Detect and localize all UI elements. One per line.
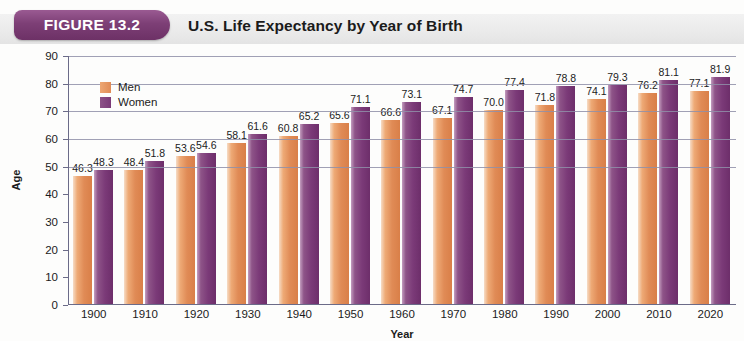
bar-group: 53.654.6 [172,56,223,304]
bar-women-1960[interactable]: 73.1 [402,102,421,304]
y-axis-tick-mark [63,277,68,278]
y-axis-tick-0: 0 [52,299,58,311]
figure-title: U.S. Life Expectancy by Year of Birth [188,17,463,35]
legend-swatch-men-icon [100,82,111,93]
x-axis-tick-1970: 1970 [441,308,467,320]
chart-grid: 46.348.348.451.853.654.658.161.660.865.2… [68,56,736,305]
y-axis-tick-mark [63,250,68,251]
bar-women-1980[interactable]: 77.4 [505,90,524,304]
y-axis-tick-mark [63,194,68,195]
x-axis-tick-1930: 1930 [235,308,261,320]
gridline-90 [69,56,736,57]
bar-value-label: 73.1 [402,88,422,100]
y-axis-tick-mark [63,305,68,306]
bar-value-label: 71.8 [535,91,555,103]
bars-layer: 46.348.348.451.853.654.658.161.660.865.2… [69,56,736,304]
bar-women-2000[interactable]: 79.3 [608,85,627,304]
bar-value-label: 70.0 [483,96,503,108]
bar-men-1900[interactable]: 46.3 [73,176,92,304]
bar-group: 74.179.3 [583,56,634,304]
legend-item-women[interactable]: Women [100,96,157,108]
bar-men-2020[interactable]: 77.1 [690,91,709,304]
y-axis-tick-90: 90 [45,50,58,62]
x-axis-tick-1940: 1940 [286,308,312,320]
bar-women-1910[interactable]: 51.8 [145,161,164,304]
bar-group: 67.174.7 [429,56,480,304]
bar-group: 71.878.8 [531,56,582,304]
bar-value-label: 71.1 [350,93,370,105]
y-axis-tick-mark [63,84,68,85]
bar-women-1930[interactable]: 61.6 [248,134,267,304]
bar-value-label: 79.3 [607,71,627,83]
bar-group: 76.281.1 [634,56,685,304]
bar-women-1940[interactable]: 65.2 [300,124,319,304]
bar-men-2000[interactable]: 74.1 [587,99,606,304]
y-axis-tick-40: 40 [45,188,58,200]
gridline-70 [69,111,736,112]
bar-value-label: 76.2 [638,79,658,91]
x-axis-tick-1900: 1900 [81,308,107,320]
chart-plot-area: Age 0102030405060708090 46.348.348.451.8… [0,56,744,341]
bar-group: 70.077.4 [480,56,531,304]
bar-men-1910[interactable]: 48.4 [124,170,143,304]
legend-label-men: Men [118,81,140,93]
x-axis-tick-1980: 1980 [492,308,518,320]
y-axis-tick-mark [63,222,68,223]
bar-value-label: 53.6 [175,142,195,154]
legend-swatch-women-icon [100,97,111,108]
gridline-60 [69,139,736,140]
bar-women-1990[interactable]: 78.8 [556,86,575,304]
x-axis-title: Year [68,328,736,340]
bar-value-label: 65.6 [329,109,349,121]
bar-men-1970[interactable]: 67.1 [433,118,452,304]
bar-value-label: 60.8 [278,122,298,134]
y-axis-title: Age [10,160,22,200]
bar-group: 60.865.2 [275,56,326,304]
y-axis-tick-50: 50 [45,161,58,173]
bar-group: 65.671.1 [326,56,377,304]
chart-legend: Men Women [100,81,157,111]
y-axis-tick-mark [63,139,68,140]
bar-women-1970[interactable]: 74.7 [454,97,473,304]
bar-group: 66.673.1 [377,56,428,304]
x-axis-tick-2020: 2020 [698,308,724,320]
bar-women-1950[interactable]: 71.1 [351,107,370,304]
y-axis-tick-mark [63,167,68,168]
y-axis-tick-80: 80 [45,78,58,90]
figure-container: FIGURE 13.2 U.S. Life Expectancy by Year… [0,0,744,341]
bar-women-2010[interactable]: 81.1 [659,80,678,304]
bar-value-label: 74.1 [586,85,606,97]
gridline-50 [69,167,736,168]
bar-men-2010[interactable]: 76.2 [638,93,657,304]
y-axis-tick-10: 10 [45,271,58,283]
bar-men-1940[interactable]: 60.8 [279,136,298,304]
legend-item-men[interactable]: Men [100,81,157,93]
bar-women-1920[interactable]: 54.6 [197,153,216,304]
x-axis-tick-1950: 1950 [338,308,364,320]
x-axis-tick-1960: 1960 [389,308,415,320]
x-axis-tick-1990: 1990 [543,308,569,320]
bar-value-label: 54.6 [196,139,216,151]
y-axis-tick-70: 70 [45,105,58,117]
bar-men-1950[interactable]: 65.6 [330,123,349,304]
x-axis-tick-2000: 2000 [595,308,621,320]
y-axis-tick-30: 30 [45,216,58,228]
y-axis-tick-60: 60 [45,133,58,145]
legend-label-women: Women [118,96,157,108]
bar-men-1990[interactable]: 71.8 [535,105,554,304]
x-axis-tick-labels: 1900191019201930194019501960197019801990… [68,308,736,328]
bar-value-label: 78.8 [556,72,576,84]
bar-men-1920[interactable]: 53.6 [176,156,195,304]
y-axis-tick-mark [63,111,68,112]
figure-number-label: FIGURE 13.2 [44,16,140,34]
bar-value-label: 46.3 [72,162,92,174]
bar-group: 58.161.6 [223,56,274,304]
y-axis-tick-20: 20 [45,244,58,256]
y-axis-tick-mark [63,56,68,57]
bar-value-label: 74.7 [453,83,473,95]
bar-value-label: 77.4 [504,76,524,88]
bar-value-label: 61.6 [247,120,267,132]
x-axis-tick-2010: 2010 [646,308,672,320]
bar-men-1960[interactable]: 66.6 [381,120,400,304]
bar-women-1900[interactable]: 48.3 [94,170,113,304]
